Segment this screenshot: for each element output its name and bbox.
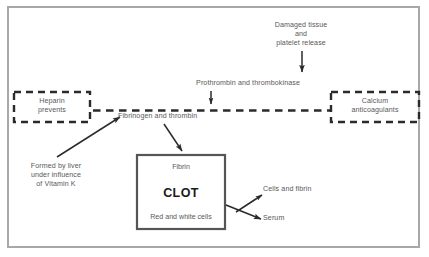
arrow-clot-to-cells	[236, 195, 262, 212]
fibrinogen-label: Fibrinogen and thrombin	[118, 112, 230, 121]
cells-and-fibrin-label: Cells and fibrin	[263, 185, 343, 194]
diagram-canvas	[0, 0, 429, 257]
damaged-tissue-label: Damaged tissue and platelet release	[249, 21, 353, 49]
formed-by-liver-label: Formed by liver under influence of Vitam…	[10, 162, 102, 190]
heparin-label: Heparin prevents	[20, 97, 84, 115]
serum-label: Serum	[263, 214, 323, 223]
diagram-root: Damaged tissue and platelet release Prot…	[0, 0, 429, 257]
arrow-formed-by-liver	[57, 117, 120, 157]
clot-box	[137, 155, 225, 229]
prothrombin-label: Prothrombin and thrombokinase	[178, 79, 318, 88]
calcium-label: Calcium anticoagulants	[335, 97, 415, 115]
arrow-fibrinogen-to-clot	[164, 124, 182, 151]
